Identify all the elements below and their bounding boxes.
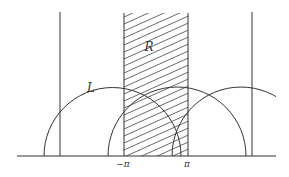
semicircle-right — [172, 87, 289, 156]
hatch-line — [124, 2, 188, 31]
diagram-canvas: R L −π π — [0, 0, 289, 177]
axis-label-pi: π — [183, 159, 191, 169]
region-label-R: R — [143, 40, 153, 54]
hatch-line — [124, 163, 188, 177]
hatch-line — [124, 9, 188, 38]
hatch-line — [124, 142, 188, 171]
hatch-line — [124, 149, 188, 177]
hatch-line — [124, 23, 188, 52]
axis-label-neg-pi: −π — [116, 159, 131, 169]
hatch-line — [124, 30, 188, 59]
hatch-line — [124, 135, 188, 164]
hatch-line — [124, 37, 188, 66]
hatch-line — [124, 156, 188, 177]
strip-hatching — [124, 0, 188, 177]
semicircle-middle — [108, 87, 246, 156]
hatch-line — [124, 16, 188, 45]
hatch-line — [124, 114, 188, 143]
hatch-line — [124, 100, 188, 129]
semicircle-L — [44, 88, 181, 156]
curve-label-L: L — [86, 81, 95, 95]
hatch-line — [124, 51, 188, 80]
hatch-line — [124, 58, 188, 87]
hatch-line — [124, 93, 188, 122]
hatch-line — [124, 0, 188, 17]
hatch-line — [124, 44, 188, 73]
hatch-line — [124, 0, 188, 10]
hatch-line — [124, 107, 188, 136]
hatch-line — [124, 128, 188, 157]
hatch-line — [124, 0, 188, 3]
